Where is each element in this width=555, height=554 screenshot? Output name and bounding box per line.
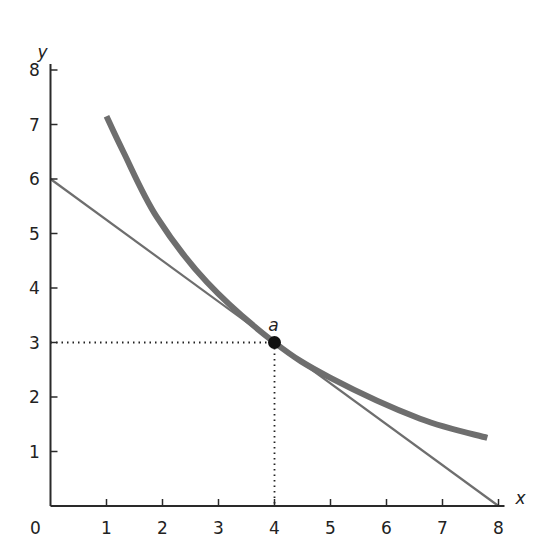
x-tick-label: 5 — [325, 518, 336, 538]
ticks: 01234567812345678 — [29, 60, 504, 538]
y-tick-label: 1 — [29, 442, 40, 462]
chart: yx 01234567812345678 a — [0, 0, 555, 554]
x-tick-label: 6 — [381, 518, 392, 538]
x-tick-label: 2 — [157, 518, 168, 538]
indifference-curve — [107, 116, 488, 438]
x-tick-label: 3 — [213, 518, 224, 538]
y-axis-label: y — [36, 42, 48, 62]
x-tick-label: 8 — [493, 518, 504, 538]
y-tick-label: 7 — [29, 115, 40, 135]
x-axis-label: x — [514, 488, 526, 508]
annotations: a — [268, 315, 281, 350]
y-tick-label: 6 — [29, 169, 40, 189]
point-label: a — [268, 315, 278, 335]
y-tick-label: 4 — [29, 278, 40, 298]
y-tick-label: 3 — [29, 333, 40, 353]
y-tick-label: 5 — [29, 224, 40, 244]
dotted-guides — [51, 343, 275, 507]
x-tick-label: 0 — [30, 518, 41, 538]
x-tick-label: 1 — [101, 518, 112, 538]
axes: yx — [36, 42, 526, 508]
x-tick-label: 4 — [269, 518, 280, 538]
y-tick-label: 8 — [29, 60, 40, 80]
x-tick-label: 7 — [437, 518, 448, 538]
y-tick-label: 2 — [29, 387, 40, 407]
point-marker — [268, 336, 281, 349]
